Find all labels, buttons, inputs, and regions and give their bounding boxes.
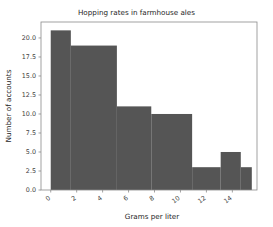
y-tick-label-2: 5.0 — [26, 148, 36, 156]
bar-5 — [221, 152, 241, 190]
bar-3 — [151, 114, 192, 190]
x-tick-label-7: 14 — [222, 194, 233, 205]
y-axis-ticks: 0.02.55.07.510.012.515.017.520.0 — [22, 34, 41, 194]
y-tick-label-1: 2.5 — [26, 167, 36, 175]
y-tick-label-7: 17.5 — [22, 53, 36, 61]
x-tick-label-1: 2 — [70, 194, 78, 203]
chart-title: Hopping rates in farmhouse ales — [78, 8, 195, 17]
bar-1 — [71, 46, 117, 190]
y-axis-label: Number of accounts — [4, 69, 13, 142]
x-axis-label: Grams per liter — [125, 212, 179, 221]
x-tick-label-5: 10 — [170, 194, 181, 205]
y-tick-label-6: 15.0 — [22, 72, 36, 80]
bar-0 — [51, 30, 71, 190]
y-tick-label-4: 10.0 — [22, 110, 36, 118]
chart-figure: 02468101214 0.02.55.07.510.012.515.017.5… — [0, 0, 273, 227]
y-tick-label-0: 0.0 — [26, 186, 36, 194]
x-tick-label-6: 12 — [196, 194, 207, 205]
x-tick-label-0: 0 — [44, 194, 52, 203]
y-tick-label-8: 20.0 — [22, 34, 36, 42]
histogram-chart: 02468101214 0.02.55.07.510.012.515.017.5… — [0, 0, 273, 227]
bar-2 — [117, 106, 151, 190]
bar-4 — [192, 167, 221, 190]
y-tick-label-3: 7.5 — [26, 129, 36, 137]
bar-6 — [241, 167, 252, 190]
bar-series — [51, 30, 252, 190]
x-tick-label-4: 8 — [148, 194, 156, 203]
x-tick-label-2: 4 — [96, 194, 104, 203]
x-axis-ticks: 02468101214 — [44, 190, 234, 205]
y-tick-label-5: 12.5 — [22, 91, 36, 99]
x-tick-label-3: 6 — [122, 194, 130, 203]
